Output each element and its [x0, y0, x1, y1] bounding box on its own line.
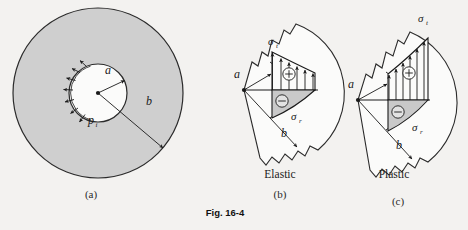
label-pressure-subscript: i [96, 121, 98, 129]
plus-sign-b [283, 68, 295, 80]
label-sigma-r-b: σ [291, 110, 297, 122]
panel-c-sublabel: (c) [392, 195, 405, 208]
panel-c-state-label: Plastic [379, 168, 410, 180]
label-sigma-r-sub-b: r [299, 117, 302, 125]
label-radius-b-b: b [281, 126, 287, 140]
minus-sign-b [276, 95, 288, 107]
label-sigma-t-c: σ [418, 12, 424, 24]
plus-sign-c [403, 67, 415, 79]
label-radius-a-c: a [348, 77, 354, 91]
label-radius-b: b [146, 94, 152, 108]
label-sigma-r-sub-c: r [420, 128, 423, 136]
figure-canvas: a b p i (a) [0, 0, 468, 230]
panel-b-sublabel: (b) [274, 188, 287, 201]
panel-a-sublabel: (a) [85, 188, 98, 201]
label-radius-b-c: b [396, 138, 402, 152]
minus-sign-c [392, 106, 404, 118]
panel-b-state-label: Elastic [264, 168, 295, 180]
label-radius-a-b: a [234, 67, 240, 81]
label-pressure: p [87, 113, 94, 127]
label-radius-a: a [105, 63, 111, 77]
label-sigma-r-c: σ [412, 121, 418, 133]
label-sigma-t-b: σ [268, 35, 274, 47]
figure-caption: Fig. 16-4 [206, 207, 245, 218]
